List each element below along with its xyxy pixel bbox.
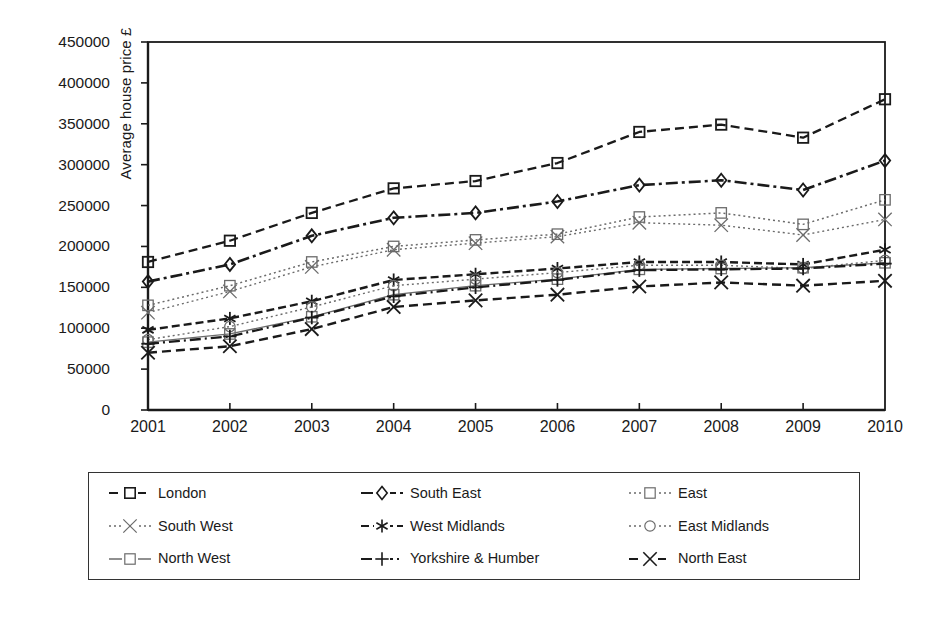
series-south-west — [141, 213, 891, 320]
legend-swatch-diamond-icon — [359, 484, 405, 502]
legend-label: South East — [410, 486, 481, 501]
legend-label: East Midlands — [678, 519, 769, 534]
legend-label: London — [158, 486, 206, 501]
series-north-east — [141, 274, 891, 359]
series-london — [143, 94, 890, 267]
legend-label: Yorkshire & Humber — [410, 551, 539, 566]
series-west-midlands — [142, 243, 890, 336]
legend-swatch-asterisk-icon — [359, 517, 405, 535]
legend-swatch-circle-icon — [627, 517, 673, 535]
legend-swatch-cross-icon — [107, 517, 153, 535]
series-east — [143, 195, 890, 311]
legend-swatch-plus-icon — [359, 550, 405, 568]
legend-label: North West — [158, 551, 230, 566]
legend-item-south-east[interactable]: South East — [359, 484, 627, 502]
legend-item-east-midlands[interactable]: East Midlands — [627, 517, 879, 535]
line-chart-svg — [0, 0, 948, 460]
legend-label: North East — [678, 551, 747, 566]
legend-item-london[interactable]: London — [107, 484, 359, 502]
legend: LondonSouth EastEastSouth WestWest Midla… — [88, 472, 860, 580]
legend-item-east[interactable]: East — [627, 484, 879, 502]
legend-item-west-midlands[interactable]: West Midlands — [359, 517, 627, 535]
legend-item-north-west[interactable]: North West — [107, 550, 359, 568]
legend-swatch-square-icon — [627, 484, 673, 502]
chart-page: Average house price £ 050000100000150000… — [0, 0, 948, 625]
legend-swatch-cross-icon — [627, 550, 673, 568]
legend-swatch-square-icon — [107, 484, 153, 502]
legend-item-south-west[interactable]: South West — [107, 517, 359, 535]
legend-swatch-square-icon — [107, 550, 153, 568]
legend-label: East — [678, 486, 707, 501]
legend-label: South West — [158, 519, 233, 534]
legend-item-yorkshire-humber[interactable]: Yorkshire & Humber — [359, 550, 627, 568]
chart-plot-area: Average house price £ 050000100000150000… — [0, 0, 948, 460]
legend-item-north-east[interactable]: North East — [627, 550, 879, 568]
legend-label: West Midlands — [410, 519, 505, 534]
